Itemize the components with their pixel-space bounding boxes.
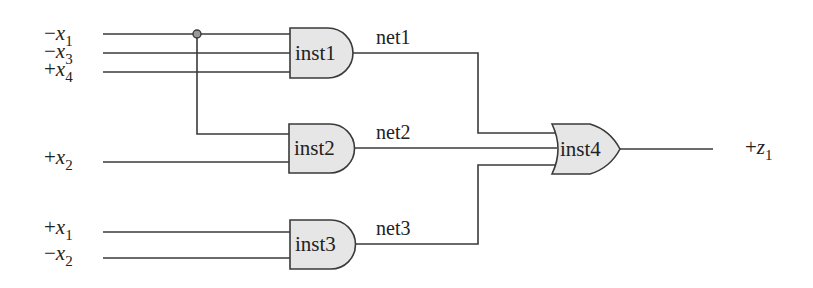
input-label-pos-x1: +x1 bbox=[44, 215, 73, 243]
gate-inst1: inst1 bbox=[290, 28, 353, 78]
output-label-z1: +z1 bbox=[745, 135, 773, 163]
junction-dot bbox=[193, 30, 201, 38]
wire-branch-neg-x1 bbox=[197, 34, 290, 134]
net1-label: net1 bbox=[376, 26, 410, 48]
gate-inst1-label: inst1 bbox=[295, 41, 336, 65]
input-label-pos-x2: +x2 bbox=[44, 145, 73, 173]
input-label-neg-x2: −x2 bbox=[44, 241, 73, 269]
gate-inst3-label: inst3 bbox=[295, 232, 336, 256]
gate-inst2: inst2 bbox=[289, 124, 354, 173]
logic-diagram: −x1 −x3 +x4 +x2 +x1 −x2 net1 net2 net3 +… bbox=[0, 0, 813, 288]
gate-inst4-label: inst4 bbox=[560, 137, 601, 161]
gate-inst3: inst3 bbox=[290, 220, 355, 269]
gate-inst4: inst4 bbox=[552, 124, 620, 174]
net2-label: net2 bbox=[376, 121, 410, 143]
gate-inst2-label: inst2 bbox=[294, 136, 335, 160]
net3-label: net3 bbox=[376, 217, 410, 239]
